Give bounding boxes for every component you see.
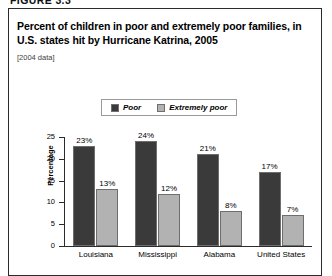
y-axis-tick-label: 20 — [37, 155, 55, 163]
bar-series-area: 23%13%24%12%21%8%17%7% — [65, 137, 312, 246]
bar-value-label: 8% — [225, 201, 237, 210]
bar-value-label: 7% — [287, 205, 299, 214]
x-axis-line — [64, 246, 312, 247]
figure-header: FIGURE 3.3 — [10, 0, 71, 6]
bar-value-label: 21% — [200, 144, 216, 153]
figure-subtitle: [2004 data] — [17, 53, 55, 62]
x-axis-label-united-states: United States — [250, 250, 312, 259]
y-axis-tick-label: 15 — [37, 177, 55, 185]
x-axis-label-mississippi: Mississippi — [127, 250, 189, 259]
bar-group: 17%7% — [250, 137, 312, 246]
bar-extremely-poor: 8% — [220, 211, 242, 246]
bar-poor: 24% — [135, 141, 157, 246]
chart-legend: Poor Extremely poor — [101, 99, 237, 116]
y-axis-tick-label: 5 — [37, 220, 55, 228]
bar-extremely-poor: 7% — [282, 215, 304, 246]
bar-value-label: 23% — [76, 136, 92, 145]
bar-extremely-poor: 13% — [96, 189, 118, 246]
bar-poor: 17% — [259, 172, 281, 246]
bar-value-label: 24% — [138, 131, 154, 140]
bar-value-label: 13% — [99, 179, 115, 188]
bar-value-label: 17% — [262, 162, 278, 171]
bar-group: 21%8% — [189, 137, 251, 246]
y-axis-tick-label: 0 — [37, 242, 55, 250]
bar-group: 23%13% — [65, 137, 127, 246]
bar-value-label: 12% — [161, 184, 177, 193]
bar-poor: 21% — [197, 154, 219, 246]
y-axis-tick — [59, 246, 65, 247]
figure-title: Percent of children in poor and extremel… — [17, 20, 311, 47]
x-axis-label-louisiana: Louisiana — [65, 250, 127, 259]
legend-swatch-poor — [111, 104, 119, 112]
bar-group: 24%12% — [127, 137, 189, 246]
legend-item-extremely-poor: Extremely poor — [157, 103, 227, 112]
legend-swatch-extremely-poor — [157, 104, 165, 112]
y-axis-tick-label: 10 — [37, 198, 55, 206]
bar-extremely-poor: 12% — [158, 194, 180, 246]
figure-box: Percent of children in poor and extremel… — [8, 8, 322, 276]
y-axis-title: Percentage — [46, 135, 55, 197]
legend-label-poor: Poor — [123, 103, 141, 112]
legend-label-extremely-poor: Extremely poor — [169, 103, 227, 112]
bar-chart: Percentage 2520151050 23%13%24%12%21%8%1… — [17, 131, 315, 263]
y-axis-tick-label: 25 — [37, 133, 55, 141]
legend-item-poor: Poor — [111, 103, 141, 112]
x-axis-label-alabama: Alabama — [189, 250, 251, 259]
bar-poor: 23% — [73, 146, 95, 246]
